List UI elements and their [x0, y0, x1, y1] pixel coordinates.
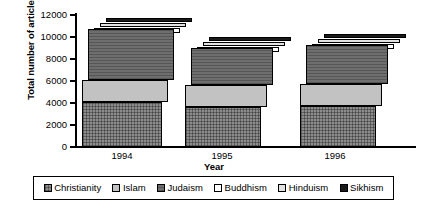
bar-group-1996[interactable] [300, 14, 410, 147]
bar-group-1994[interactable] [82, 14, 192, 147]
bar-segment-christianity-1996[interactable] [300, 106, 376, 147]
bar-segment-hinduism-1994[interactable] [100, 23, 186, 27]
bar-group-1995[interactable] [185, 14, 295, 147]
bar-segment-christianity-1994[interactable] [82, 102, 162, 147]
legend-label-judaism: Judaism [167, 183, 202, 193]
legend-swatch-islam-icon [112, 184, 120, 192]
bar-segment-christianity-1995[interactable] [185, 107, 261, 147]
legend-swatch-judaism-icon [157, 184, 165, 192]
legend-item-islam[interactable]: Islam [112, 183, 145, 193]
legend-item-hinduism[interactable]: Hinduism [278, 183, 328, 193]
bar-segment-sikhism-1996[interactable] [324, 34, 406, 38]
bar-segment-islam-1996[interactable] [300, 84, 382, 106]
y-tick-label-2000: 2000 [46, 120, 67, 129]
y-tick-label-8000: 8000 [46, 54, 67, 63]
legend-label-christianity: Christianity [54, 183, 101, 193]
chart-container: Total number of articles 12000 10000 800… [0, 0, 428, 217]
legend-item-buddhism[interactable]: Buddhism [214, 183, 267, 193]
bar-segment-islam-1995[interactable] [185, 85, 267, 107]
bar-segment-hinduism-1995[interactable] [203, 42, 285, 46]
y-tick-label-0: 0 [62, 142, 67, 151]
x-tick-label-1996: 1996 [305, 150, 365, 161]
legend-label-islam: Islam [123, 183, 146, 193]
bar-segment-sikhism-1995[interactable] [209, 37, 291, 41]
bar-segment-sikhism-1994[interactable] [106, 18, 192, 22]
bar-segment-judaism-1996[interactable] [306, 45, 388, 84]
legend-label-hinduism: Hinduism [289, 183, 329, 193]
legend-swatch-hinduism-icon [278, 184, 286, 192]
bar-segment-judaism-1994[interactable] [88, 29, 174, 80]
bar-segment-hinduism-1996[interactable] [318, 39, 400, 43]
legend-label-buddhism: Buddhism [225, 183, 267, 193]
legend-item-judaism[interactable]: Judaism [157, 183, 203, 193]
legend-swatch-sikhism-icon [340, 184, 348, 192]
y-tick-label-12000: 12000 [41, 10, 67, 19]
chart-legend: Christianity Islam Judaism Buddhism Hind… [33, 176, 394, 200]
legend-label-sikhism: Sikhism [350, 183, 383, 193]
y-tick-label-6000: 6000 [46, 76, 67, 85]
bar-segment-islam-1994[interactable] [82, 80, 168, 102]
legend-swatch-buddhism-icon [214, 184, 222, 192]
legend-item-sikhism[interactable]: Sikhism [340, 183, 384, 193]
legend-item-christianity[interactable]: Christianity [44, 183, 102, 193]
x-tick-label-1995: 1995 [192, 150, 252, 161]
bar-segment-judaism-1995[interactable] [191, 48, 273, 85]
y-tick-label-4000: 4000 [46, 98, 67, 107]
x-axis-title: Year [0, 161, 428, 172]
legend-swatch-christianity-icon [44, 184, 52, 192]
y-axis-line [75, 13, 77, 147]
y-tick-label-10000: 10000 [41, 32, 67, 41]
x-tick-label-1994: 1994 [92, 150, 152, 161]
